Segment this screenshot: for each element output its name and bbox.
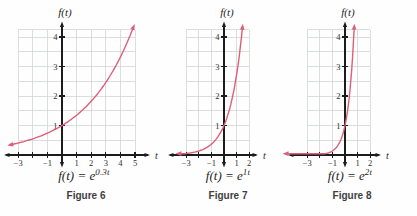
svg-text:2: 2	[89, 158, 93, 168]
figure7-formula: f(t) = e1t	[206, 168, 250, 184]
svg-text:−1: −1	[207, 158, 216, 168]
figure7-formula-exponent: 1t	[243, 167, 250, 177]
svg-text:1: 1	[215, 121, 219, 131]
figure7-caption: Figure 7	[209, 190, 248, 201]
svg-text:2: 2	[336, 91, 340, 101]
svg-text:4: 4	[118, 158, 123, 168]
svg-text:3: 3	[215, 62, 219, 72]
svg-text:f(t): f(t)	[58, 6, 72, 19]
svg-text:1: 1	[74, 158, 78, 168]
svg-text:−1: −1	[328, 158, 337, 168]
svg-text:1: 1	[234, 158, 238, 168]
figure6-formula-base: f(t) = e	[58, 168, 95, 183]
svg-text:1: 1	[355, 158, 359, 168]
svg-text:f(t): f(t)	[341, 6, 355, 19]
figure6-formula: f(t) = e0.3t	[58, 168, 110, 184]
figure8-formula-exponent: 2t	[365, 167, 372, 177]
figure6-formula-exponent: 0.3t	[95, 167, 110, 177]
svg-text:5: 5	[133, 158, 137, 168]
svg-text:−1: −1	[43, 158, 52, 168]
figure7-formula-base: f(t) = e	[206, 168, 243, 183]
svg-text:t: t	[263, 150, 266, 161]
figure8-formula: f(t) = e2t	[328, 168, 372, 184]
svg-text:−3: −3	[182, 158, 191, 168]
exponential-growth-figures-panel: −3−1123451234f(t)t −3−1121234f(t)t −3−11…	[0, 0, 417, 216]
svg-text:3: 3	[53, 62, 57, 72]
svg-text:−3: −3	[303, 158, 312, 168]
svg-text:3: 3	[336, 62, 340, 72]
svg-text:t: t	[155, 150, 158, 161]
svg-text:t: t	[386, 150, 389, 161]
svg-text:−3: −3	[14, 158, 23, 168]
svg-text:2: 2	[215, 91, 219, 101]
figure8-caption: Figure 8	[333, 190, 372, 201]
figure6-caption: Figure 6	[67, 190, 106, 201]
svg-text:2: 2	[53, 91, 57, 101]
svg-text:f(t): f(t)	[220, 6, 234, 19]
figure8-formula-base: f(t) = e	[328, 168, 365, 183]
svg-text:1: 1	[336, 121, 340, 131]
